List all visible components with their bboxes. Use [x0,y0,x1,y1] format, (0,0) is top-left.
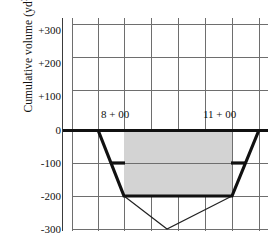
secondary-curve [124,196,232,229]
station-label-11: 11 + 00 [203,108,236,120]
y-tick-label: +300 [15,24,61,36]
y-tick-label: +100 [15,90,61,102]
y-axis-tick-labels: +300 +200 +100 0 -100 -200 -300 [12,0,61,246]
curves-layer [63,18,268,231]
station-label-8: 8 + 00 [101,108,129,120]
y-tick-label: +200 [15,57,61,69]
y-tick-label: -200 [15,190,61,202]
chart-figure: Cumulative volume (yd3) +300 +200 +100 0… [0,0,275,246]
y-tick-label: -300 [15,223,61,235]
plot-area: 8 + 00 11 + 00 [63,18,268,231]
y-tick-label: 0 [15,124,61,136]
y-tick-label: -100 [15,157,61,169]
